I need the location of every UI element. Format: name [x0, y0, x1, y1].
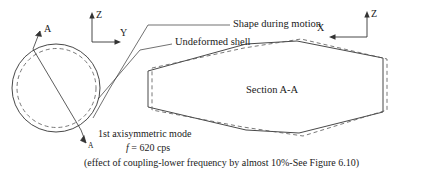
section-cut-line: [33, 49, 81, 130]
left-axis-y-arrowhead: [115, 39, 122, 44]
section-title-label: Section A-A: [246, 85, 298, 96]
callout-shape-during-motion: Shape during motion: [233, 19, 321, 30]
annotation-note: (effect of coupling-lower frequency by a…: [84, 158, 359, 168]
section-marker-top-label: A: [44, 24, 51, 34]
annotation-frequency: f = 620 cps: [126, 143, 170, 153]
leader-undeformed-shell: [98, 44, 172, 99]
callout-undeformed-shell: Undeformed shell: [175, 37, 251, 48]
frequency-value: = 620 cps: [131, 142, 170, 153]
left-axis-z-label: Z: [96, 10, 102, 20]
frequency-symbol: f: [126, 142, 129, 153]
left-axis-y-label: Y: [120, 28, 127, 38]
section-arrow-top-head: [36, 31, 42, 37]
annotation-mode: 1st axisymmetric mode: [98, 129, 191, 139]
section-arrow-bottom-head: [81, 136, 87, 144]
figure-container: Z Y Z X A A Shape during motion Undeform…: [0, 0, 439, 178]
right-axis-x-arrowhead: [329, 34, 336, 39]
left-axis-z-arrowhead: [89, 12, 94, 19]
diagram-canvas: [0, 0, 439, 178]
right-axis-z-arrowhead: [364, 11, 369, 18]
right-axis-z-label: Z: [371, 9, 377, 19]
section-marker-bottom-label: A: [88, 142, 93, 150]
